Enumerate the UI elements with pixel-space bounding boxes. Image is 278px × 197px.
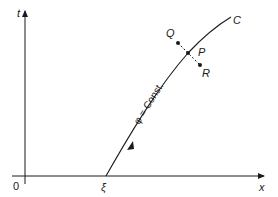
xi-label: ξ [101,181,107,194]
point-p [186,51,190,55]
point-q [176,41,180,45]
curve-direction-arrow-icon [127,141,134,150]
point-q-label: Q [166,27,175,39]
origin-label: 0 [13,180,19,192]
curve-c-label: C [233,14,241,26]
x-axis-label: x [258,181,265,193]
t-axis-label: t [17,7,21,19]
curve-c [106,17,231,176]
point-p-label: P [198,46,206,58]
point-r-label: R [202,67,210,79]
characteristic-diagram: t x 0 ξ C Q P R φ = Const. [0,0,278,197]
phi-constant-annotation: φ = Const. [131,81,165,127]
